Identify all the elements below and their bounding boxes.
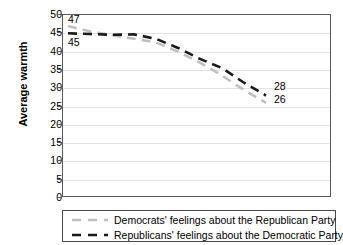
start-label-democrats: 47 <box>68 14 80 25</box>
end-label-republicans: 28 <box>274 81 286 92</box>
series-lines <box>63 15 332 198</box>
legend-item-republicans: Republicans' feelings about the Democrat… <box>63 227 335 242</box>
legend-swatch-republicans <box>71 229 109 241</box>
legend-item-democrats: Democrats' feelings about the Republican… <box>63 212 335 227</box>
y-tick-mark <box>57 197 62 198</box>
end-label-democrats: 26 <box>274 94 286 105</box>
legend: Democrats' feelings about the Republican… <box>62 210 336 242</box>
plot-area: 47 45 28 26 <box>62 14 331 197</box>
start-label-republicans: 45 <box>68 37 80 48</box>
series-line-democrats <box>68 26 266 103</box>
y-axis-title: Average warmth <box>17 19 29 149</box>
legend-swatch-democrats <box>71 214 109 226</box>
legend-label-republicans: Republicans' feelings about the Democrat… <box>114 229 343 241</box>
legend-label-democrats: Democrats' feelings about the Republican… <box>114 214 335 226</box>
